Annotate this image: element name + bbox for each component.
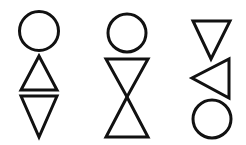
figure-1 (20, 12, 59, 138)
triangle-up-shape (21, 56, 57, 90)
triangle-left-shape (192, 59, 229, 98)
triangle-down-shape (193, 21, 230, 59)
figure-3 (192, 21, 231, 138)
circle-shape (193, 100, 231, 138)
figure-2 (106, 14, 148, 137)
circle-shape (108, 14, 146, 52)
triangle-down-shape (21, 96, 57, 137)
shapes-diagram (0, 0, 246, 145)
triangle-up-shape (106, 97, 148, 137)
circle-shape (20, 12, 59, 51)
triangle-down-shape (106, 59, 148, 97)
